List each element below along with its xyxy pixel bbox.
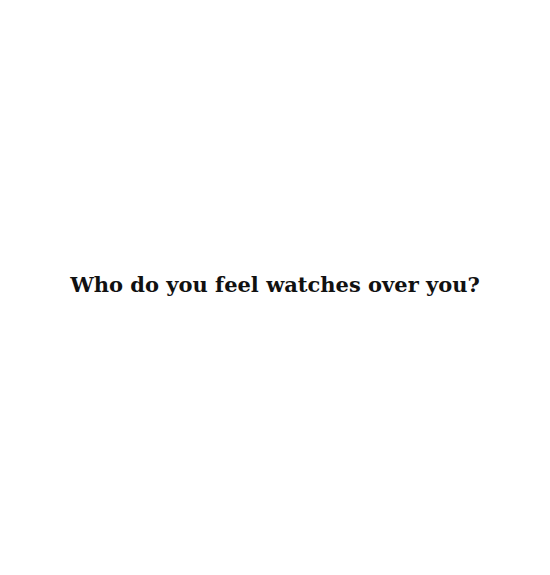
question-text: Who do you feel watches over you? — [0, 270, 550, 300]
page: Who do you feel watches over you? — [0, 0, 550, 575]
